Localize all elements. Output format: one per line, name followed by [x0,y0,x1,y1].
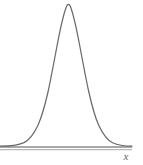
chart-background [0,0,143,165]
figure-container: x [0,0,143,165]
x-axis-label: x [123,150,129,162]
bell-curve-chart: x [0,0,143,165]
